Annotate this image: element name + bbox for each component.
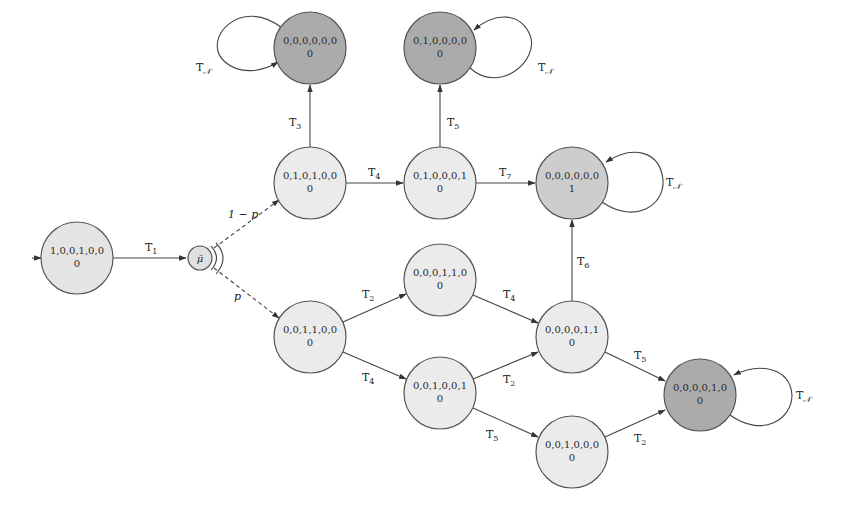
svg-text:0,0,1,0,0,1: 0,0,1,0,0,1 [413, 380, 467, 391]
node-H: 0,0,0,1,1,0 0 [404, 244, 476, 316]
node-A: 1,0,0,1,0,0 0 [41, 222, 113, 294]
label-T2-GH: T2 [362, 288, 374, 303]
label-T5-JL: T5 [634, 349, 646, 364]
label-TN-E: T𝒩 [538, 61, 555, 76]
node-K: 0,0,1,0,0,0 0 [536, 416, 608, 488]
label-T4-GI: T4 [362, 371, 374, 386]
node-I: 0,0,1,0,0,1 0 [404, 357, 476, 429]
label-T1: T1 [145, 241, 157, 256]
node-C: 0,0,0,0,0,0 0 [274, 12, 346, 84]
svg-text:0: 0 [74, 258, 80, 269]
edge-I-K [473, 408, 538, 437]
label-T4-BD: T4 [368, 166, 380, 181]
node-mu: μ̄ [188, 246, 212, 270]
svg-text:0,1,0,1,0,0: 0,1,0,1,0,0 [283, 170, 337, 181]
label-T4-HJ: T4 [503, 288, 515, 303]
node-J: 0,0,0,0,1,1 0 [536, 301, 608, 373]
label-T2-KL: T2 [634, 432, 646, 447]
svg-text:0,0,0,1,1,0: 0,0,0,1,1,0 [413, 267, 467, 278]
edge-MU-G [214, 268, 279, 318]
label-1-minus-p: 1 − p [228, 208, 258, 221]
svg-text:1: 1 [569, 183, 575, 194]
self-loop-C [217, 16, 282, 70]
svg-text:0: 0 [437, 393, 443, 404]
label-T3: T3 [289, 116, 301, 131]
node-E: 0,1,0,0,0,0 0 [404, 12, 476, 84]
svg-text:0,0,1,1,0,0: 0,0,1,1,0,0 [283, 324, 337, 335]
label-T7: T7 [499, 166, 511, 181]
edge-G-H [343, 294, 406, 322]
svg-text:1,0,0,1,0,0: 1,0,0,1,0,0 [50, 245, 104, 256]
svg-text:0: 0 [437, 183, 443, 194]
svg-text:0: 0 [307, 183, 313, 194]
node-L: 0,0,0,0,1,0 0 [664, 359, 736, 431]
state-diagram: 1,0,0,1,0,0 0 μ̄ 0,1,0,1,0,0 0 0,0,0,0,0… [0, 0, 841, 514]
edge-G-I [343, 352, 406, 379]
self-loop-L [730, 368, 792, 425]
svg-text:μ̄: μ̄ [197, 253, 204, 264]
label-T2-IJ: T2 [503, 373, 515, 388]
label-TN-C: T𝒩 [196, 61, 213, 76]
svg-text:0,0,1,0,0,0: 0,0,1,0,0,0 [545, 439, 599, 450]
svg-text:0,0,0,0,1,0: 0,0,0,0,1,0 [673, 382, 727, 393]
svg-text:0: 0 [307, 48, 313, 59]
svg-text:0,0,0,0,0,0: 0,0,0,0,0,0 [545, 170, 599, 181]
svg-text:0: 0 [307, 337, 313, 348]
svg-text:0: 0 [569, 337, 575, 348]
svg-text:0: 0 [437, 280, 443, 291]
node-B: 0,1,0,1,0,0 0 [274, 147, 346, 219]
label-TN-F: T𝒩 [666, 176, 683, 191]
self-loop-F [602, 152, 663, 212]
svg-text:0: 0 [697, 395, 703, 406]
svg-text:0: 0 [569, 452, 575, 463]
svg-text:0,0,0,0,1,1: 0,0,0,0,1,1 [545, 324, 599, 335]
label-T6-JF: T6 [577, 255, 589, 270]
svg-text:0,1,0,0,0,1: 0,1,0,0,0,1 [413, 170, 467, 181]
self-loop-E [470, 17, 532, 78]
label-T5-IK: T5 [486, 428, 498, 443]
svg-text:0,0,0,0,0,0: 0,0,0,0,0,0 [283, 35, 337, 46]
label-TN-L: T𝒩 [796, 389, 813, 404]
node-F: 0,0,0,0,0,0 1 [536, 147, 608, 219]
svg-text:0: 0 [437, 48, 443, 59]
label-p: p [234, 290, 241, 303]
label-T5-DE: T5 [447, 116, 459, 131]
svg-text:0,1,0,0,0,0: 0,1,0,0,0,0 [413, 35, 467, 46]
node-D: 0,1,0,0,0,1 0 [404, 147, 476, 219]
node-G: 0,0,1,1,0,0 0 [274, 301, 346, 373]
